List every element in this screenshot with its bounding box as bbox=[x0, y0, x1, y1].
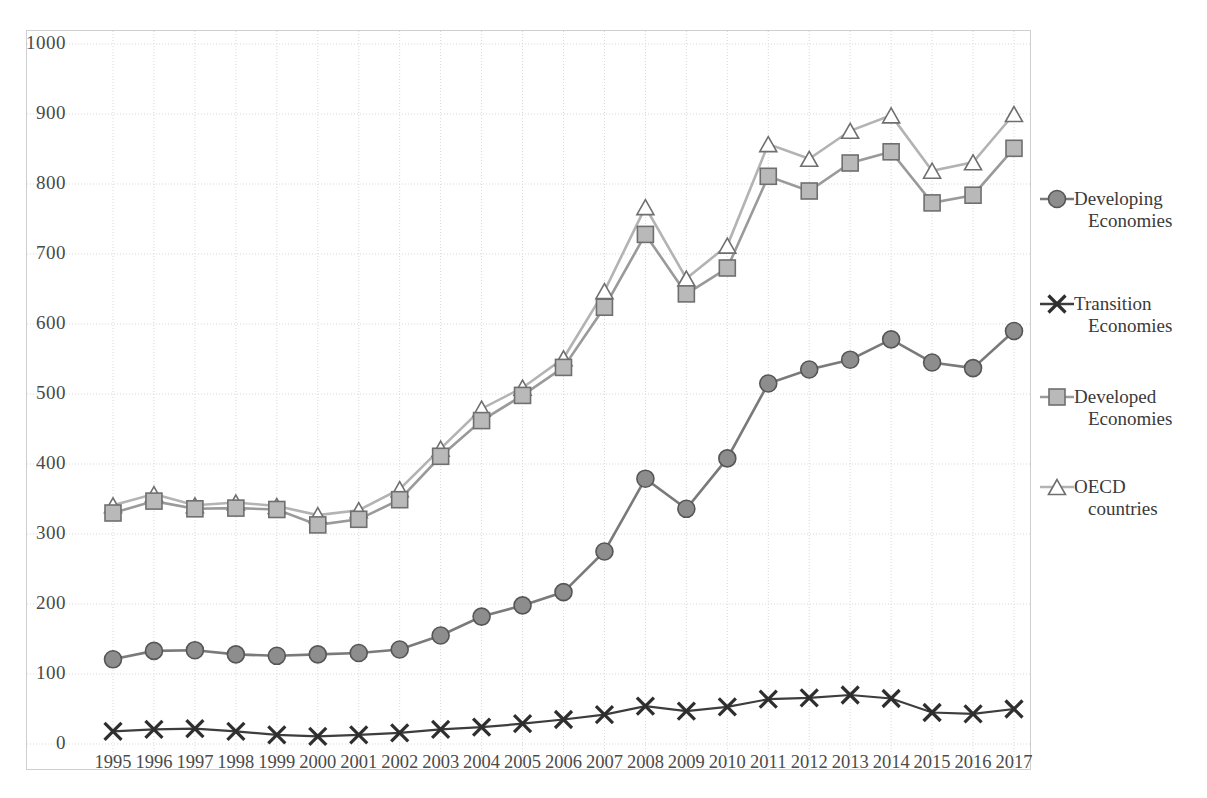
legend-marker-circle-icon bbox=[1040, 189, 1074, 209]
legend-label-line2: countries bbox=[1074, 498, 1158, 520]
legend-marker-triangle-icon bbox=[1040, 477, 1074, 497]
legend-label: TransitionEconomies bbox=[1074, 293, 1172, 338]
data-point-square bbox=[474, 413, 490, 429]
legend-label: OECDcountries bbox=[1074, 476, 1158, 521]
y-axis-tick-label: 500 bbox=[8, 382, 66, 404]
data-point-circle bbox=[924, 354, 941, 371]
legend-marker-x-icon bbox=[1040, 294, 1074, 314]
legend-label: DevelopingEconomies bbox=[1074, 188, 1172, 233]
data-point-square bbox=[228, 500, 244, 516]
chart-container: 01002003004005006007008009001000 1995199… bbox=[0, 0, 1207, 798]
y-axis-tick-label: 1000 bbox=[8, 32, 66, 54]
data-point-circle bbox=[719, 450, 736, 467]
data-point-circle bbox=[596, 543, 613, 560]
data-point-triangle bbox=[719, 238, 736, 253]
data-point-circle bbox=[105, 651, 122, 668]
data-point-square bbox=[1049, 389, 1065, 405]
data-point-circle bbox=[883, 331, 900, 348]
data-point-circle bbox=[555, 584, 572, 601]
data-point-circle bbox=[514, 597, 531, 614]
data-point-square bbox=[678, 286, 694, 302]
data-point-circle bbox=[473, 608, 490, 625]
chart-plot-svg bbox=[0, 0, 1207, 798]
legend-label-line1: Transition bbox=[1074, 293, 1151, 314]
legend-label-line1: Developed bbox=[1074, 386, 1156, 407]
data-point-square bbox=[883, 144, 899, 160]
data-point-circle bbox=[842, 351, 859, 368]
data-point-circle bbox=[309, 646, 326, 663]
data-point-triangle bbox=[883, 108, 900, 123]
legend-label-line2: Economies bbox=[1074, 315, 1172, 337]
data-point-square bbox=[760, 168, 776, 184]
data-point-square bbox=[433, 448, 449, 464]
data-point-square bbox=[269, 502, 285, 518]
data-point-square bbox=[310, 517, 326, 533]
data-point-circle bbox=[268, 647, 285, 664]
data-point-circle bbox=[678, 500, 695, 517]
y-axis-tick-label: 800 bbox=[8, 172, 66, 194]
data-point-square bbox=[146, 493, 162, 509]
legend-item[interactable]: DevelopingEconomies bbox=[1040, 188, 1172, 233]
y-axis-tick-label: 0 bbox=[8, 732, 66, 754]
data-point-square bbox=[392, 492, 408, 508]
data-point-circle bbox=[227, 646, 244, 663]
data-point-square bbox=[719, 260, 735, 276]
y-axis-tick-label: 900 bbox=[8, 102, 66, 124]
legend-label-line2: Economies bbox=[1074, 210, 1172, 232]
data-point-circle bbox=[145, 642, 162, 659]
legend-item[interactable]: TransitionEconomies bbox=[1040, 293, 1172, 338]
data-point-circle bbox=[350, 645, 367, 662]
y-axis-tick-label: 400 bbox=[8, 452, 66, 474]
y-axis-tick-label: 700 bbox=[8, 242, 66, 264]
data-point-triangle bbox=[842, 123, 859, 138]
data-point-square bbox=[637, 226, 653, 242]
legend-label-line1: Developing bbox=[1074, 188, 1163, 209]
data-point-square bbox=[924, 195, 940, 211]
data-point-circle bbox=[637, 470, 654, 487]
y-axis-tick-label: 200 bbox=[8, 592, 66, 614]
legend-item[interactable]: DevelopedEconomies bbox=[1040, 386, 1172, 431]
series-line bbox=[113, 148, 1014, 525]
data-point-circle bbox=[801, 361, 818, 378]
data-point-circle bbox=[391, 641, 408, 658]
legend-label: DevelopedEconomies bbox=[1074, 386, 1172, 431]
data-point-circle bbox=[1006, 323, 1023, 340]
data-point-circle bbox=[432, 627, 449, 644]
data-point-square bbox=[1006, 140, 1022, 156]
data-point-square bbox=[187, 501, 203, 517]
data-point-circle bbox=[965, 360, 982, 377]
data-point-square bbox=[515, 387, 531, 403]
x-axis-tick-label: 2017 bbox=[986, 752, 1042, 773]
data-point-square bbox=[105, 505, 121, 521]
data-point-square bbox=[596, 299, 612, 315]
data-point-square bbox=[842, 155, 858, 171]
data-point-triangle bbox=[596, 284, 613, 299]
data-point-triangle bbox=[760, 137, 777, 152]
data-point-square bbox=[556, 359, 572, 375]
data-point-circle bbox=[1049, 191, 1066, 208]
legend-label-line1: OECD bbox=[1074, 476, 1126, 497]
data-point-circle bbox=[760, 375, 777, 392]
data-point-square bbox=[351, 511, 367, 527]
data-point-triangle bbox=[637, 200, 654, 215]
data-point-circle bbox=[186, 642, 203, 659]
y-axis-tick-label: 100 bbox=[8, 662, 66, 684]
y-axis-tick-label: 600 bbox=[8, 312, 66, 334]
legend-item[interactable]: OECDcountries bbox=[1040, 476, 1158, 521]
data-point-square bbox=[801, 183, 817, 199]
legend-label-line2: Economies bbox=[1074, 408, 1172, 430]
y-axis-tick-label: 300 bbox=[8, 522, 66, 544]
data-point-square bbox=[965, 187, 981, 203]
legend-marker-square-icon bbox=[1040, 387, 1074, 407]
